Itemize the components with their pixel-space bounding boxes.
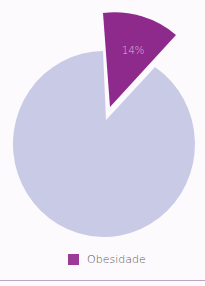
legend-swatch-obesidade	[68, 254, 79, 265]
slice-value-label: 14%	[119, 44, 147, 56]
pie-slice-rest	[13, 51, 195, 237]
chart-legend: Obesidade	[68, 253, 146, 266]
pie-chart: 14%	[0, 0, 205, 245]
legend-label-obesidade: Obesidade	[87, 253, 146, 266]
separator-line	[0, 280, 205, 281]
